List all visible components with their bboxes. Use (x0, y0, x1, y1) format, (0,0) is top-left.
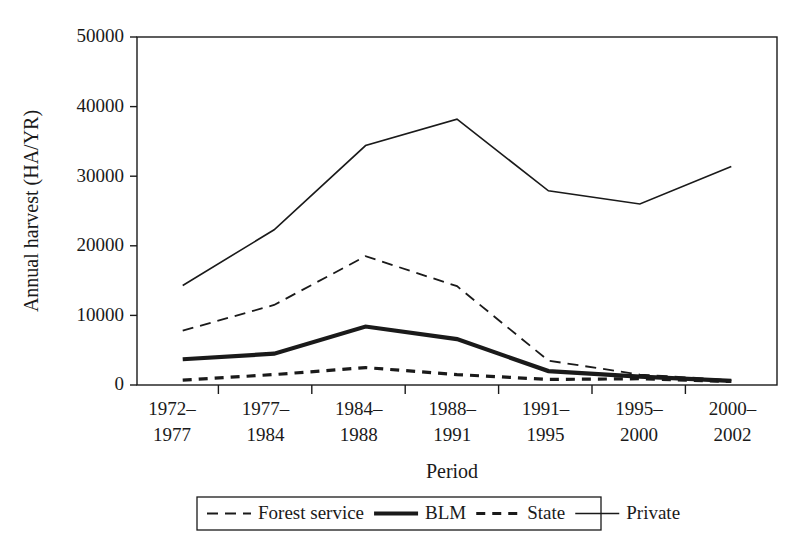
x-tick-label-1-line2: 1984 (246, 424, 285, 445)
y-axis-title: Annual harvest (HA/YR) (20, 110, 43, 312)
x-tick-label-2-line2: 1988 (340, 424, 378, 445)
series-line-forest-service (183, 256, 732, 380)
series-line-blm (183, 327, 732, 381)
x-tick-label-2-line1: 1984– (335, 398, 383, 419)
legend-label-private: Private (626, 502, 680, 523)
x-axis-tick-labels: 1972– 1977 1977– 1984 1984– 1988 1988– 1… (148, 398, 756, 445)
y-tick-label-20000: 20000 (77, 234, 125, 255)
harvest-line-chart: 50000 40000 30000 20000 10000 0 Annual h… (0, 0, 796, 554)
series-line-private (183, 119, 732, 285)
x-tick-label-1-line1: 1977– (242, 398, 290, 419)
x-tick-label-4-line2: 1995 (527, 424, 565, 445)
x-tick-label-3-line2: 1991 (433, 424, 471, 445)
legend-label-blm: BLM (425, 502, 466, 523)
x-tick-label-6-line2: 2002 (713, 424, 751, 445)
x-tick-label-6-line1: 2000– (709, 398, 757, 419)
data-series-layer (183, 119, 732, 381)
y-tick-label-10000: 10000 (77, 304, 125, 325)
x-axis-ticks (218, 385, 685, 394)
x-tick-label-0-line2: 1977 (153, 424, 191, 445)
legend-label-forest-service: Forest service (258, 502, 364, 523)
x-tick-label-5-line1: 1995– (615, 398, 663, 419)
x-tick-label-5-line2: 2000 (620, 424, 658, 445)
y-axis-ticks (130, 37, 137, 385)
y-tick-label-0: 0 (115, 373, 125, 394)
y-axis-tick-labels: 50000 40000 30000 20000 10000 0 (77, 25, 125, 394)
plot-frame (137, 37, 777, 385)
x-tick-label-4-line1: 1991– (522, 398, 570, 419)
legend-label-state: State (527, 502, 565, 523)
y-tick-label-30000: 30000 (77, 165, 125, 186)
y-tick-label-40000: 40000 (77, 95, 125, 116)
x-axis-title: Period (426, 460, 478, 482)
y-tick-label-50000: 50000 (77, 25, 125, 46)
x-tick-label-0-line1: 1972– (148, 398, 196, 419)
x-tick-label-3-line1: 1988– (428, 398, 476, 419)
legend-entries: Forest serviceBLMStatePrivate (207, 502, 680, 523)
